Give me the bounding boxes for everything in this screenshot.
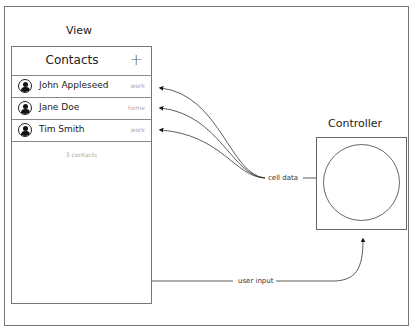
user-input-label: user input (238, 277, 274, 285)
cell-data-label: cell data (268, 174, 298, 182)
connector-arrows (0, 0, 416, 331)
